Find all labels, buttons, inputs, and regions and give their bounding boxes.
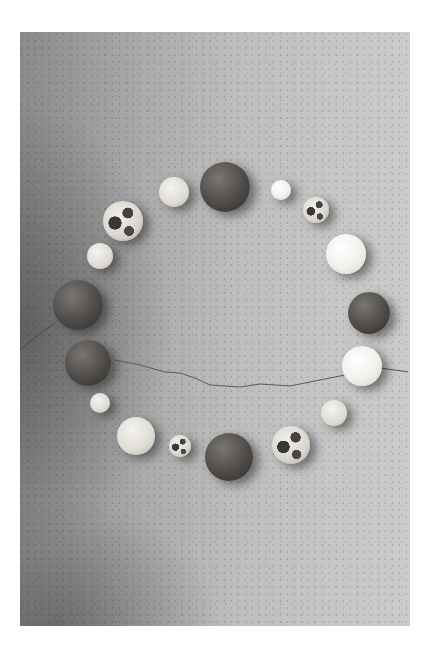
ball-dark <box>205 433 253 481</box>
ball-mottled <box>272 426 310 464</box>
crack-line <box>20 323 55 350</box>
crack-line <box>115 360 345 387</box>
ball-cream <box>87 243 113 269</box>
photo-frame <box>20 32 410 626</box>
ball-cream <box>159 177 189 207</box>
ball-cream <box>117 417 155 455</box>
ball-white <box>342 346 382 386</box>
ball-white <box>271 180 291 200</box>
ball-dark <box>348 292 390 334</box>
crack-line <box>380 368 408 372</box>
ball-white <box>326 234 366 274</box>
ball-mottled <box>303 197 329 223</box>
ball-dark <box>65 340 111 386</box>
ball-mottled <box>103 201 143 241</box>
ball-dark <box>200 162 250 212</box>
ball-dark <box>53 280 103 330</box>
ball-cream <box>90 393 110 413</box>
ball-mottled <box>169 435 191 457</box>
ball-cream <box>321 400 347 426</box>
